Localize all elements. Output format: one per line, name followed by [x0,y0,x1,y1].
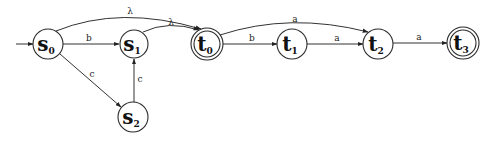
state-t0-accepting: t0 [191,28,223,60]
state-t2: t2 [363,29,393,59]
edge-s0-t0: λ [56,6,201,31]
state-s0: s0 [33,29,63,59]
state-subscript: 3 [462,45,468,55]
edge-s0-s1: b [63,33,119,44]
edge-label: a [334,33,340,43]
state-subscript: 2 [134,119,140,129]
state-s1: s1 [120,30,148,58]
edge-s0-s2: c [60,54,121,107]
state-label: s [37,32,48,56]
state-label: s [122,105,133,129]
state-subscript: 2 [377,46,383,56]
edge-s2-s1: c [134,59,143,102]
edge-label: a [416,32,422,42]
edge-label: a [292,14,298,24]
edge-label: b [249,33,255,43]
state-subscript: 1 [135,46,141,56]
state-label: s [123,32,134,56]
edge-label: b [86,33,92,43]
state-subscript: 0 [206,46,212,56]
state-subscript: 0 [49,46,55,56]
edge-label: c [137,74,142,84]
state-t1: t1 [277,29,307,59]
edge-label: λ [127,6,133,16]
edge-label: c [89,69,94,79]
edge-label: λ [168,17,174,27]
edge-t1-t2: a [307,33,363,44]
automaton-diagram: b c c λ λ b a a a s0 s1 [0,0,491,142]
state-subscript: 1 [291,46,297,56]
edge-t2-t3: a [393,32,447,43]
state-t3-accepting: t3 [447,27,479,59]
state-s2: s2 [118,102,148,132]
edge-t0-t1: b [223,33,277,44]
